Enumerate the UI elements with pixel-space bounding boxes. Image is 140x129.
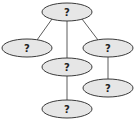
node-middle: ? bbox=[42, 58, 92, 76]
node-left: ? bbox=[2, 39, 52, 57]
tree-diagram: ? ? ? ? ? ? bbox=[0, 0, 140, 129]
node-middle-child-label: ? bbox=[64, 104, 70, 115]
node-middle-label: ? bbox=[64, 62, 70, 73]
node-right: ? bbox=[83, 39, 133, 57]
node-middle-child: ? bbox=[42, 100, 92, 118]
node-left-label: ? bbox=[24, 43, 30, 54]
node-right-child-label: ? bbox=[105, 83, 111, 94]
node-root-label: ? bbox=[64, 7, 70, 18]
node-right-label: ? bbox=[105, 43, 111, 54]
node-right-child: ? bbox=[83, 79, 133, 97]
edge-root-left bbox=[37, 19, 52, 40]
node-root: ? bbox=[42, 3, 92, 21]
edge-root-right bbox=[82, 19, 98, 40]
